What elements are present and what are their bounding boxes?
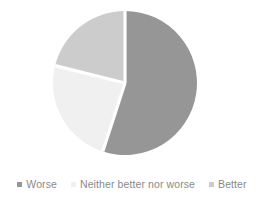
pie-plot-area bbox=[0, 0, 264, 166]
pie-svg bbox=[0, 0, 264, 166]
legend-item-label: Better bbox=[218, 178, 247, 190]
legend-item-label: Worse bbox=[26, 178, 57, 190]
square-marker-icon-neither bbox=[71, 182, 76, 187]
legend-item-neither-better-nor-worse[interactable]: Neither better nor worse bbox=[71, 178, 195, 190]
square-marker-icon-worse bbox=[17, 182, 22, 187]
legend-item-label: Neither better nor worse bbox=[80, 178, 195, 190]
square-marker-icon-better bbox=[209, 182, 214, 187]
legend-item-worse[interactable]: Worse bbox=[17, 178, 57, 190]
chart-legend: Worse Neither better nor worse Better bbox=[0, 172, 264, 196]
legend-item-better[interactable]: Better bbox=[209, 178, 247, 190]
pie-chart-figure: Worse Neither better nor worse Better bbox=[0, 0, 264, 201]
